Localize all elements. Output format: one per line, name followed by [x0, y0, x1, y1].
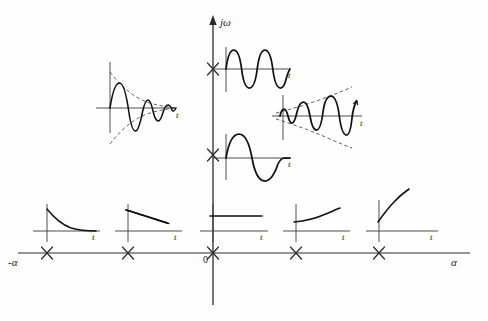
response-slow-growth — [283, 204, 350, 242]
imaginary-axis-arrow — [209, 15, 216, 25]
time-label-sustained-high-freq: t — [288, 70, 291, 80]
response-fast-decay — [33, 204, 100, 242]
curve-sustained-low-freq — [226, 134, 290, 181]
time-label-growing-oscillation: t — [360, 118, 363, 128]
response-fast-growth — [366, 189, 438, 242]
response-slow-decay — [115, 204, 182, 242]
main-axes — [18, 15, 470, 305]
curve-slow-growth — [294, 208, 340, 222]
time-label-slow-decay: t — [174, 232, 177, 242]
time-label-sustained-low-freq: t — [288, 159, 291, 169]
envelope-growth-upper-4 — [276, 87, 352, 113]
time-label-constant: t — [260, 232, 263, 242]
s-plane-canvas — [0, 0, 488, 321]
curve-damped-sinusoid — [110, 83, 176, 131]
response-constant — [200, 204, 268, 242]
response-growing-oscillation — [272, 87, 362, 148]
curve-growing-sinusoid — [280, 96, 357, 135]
response-damped-oscillation — [96, 62, 176, 144]
curve-fast-growth — [378, 189, 409, 222]
origin-label: 0 — [203, 254, 208, 265]
real-axis-label-positive: α — [451, 256, 457, 268]
time-label-fast-growth: t — [430, 232, 433, 242]
curve-slow-decay-tail — [126, 210, 166, 223]
envelope-decay-upper-1 — [110, 72, 176, 108]
time-label-slow-growth: t — [342, 232, 345, 242]
imaginary-axis-label: jω — [220, 16, 231, 28]
real-axis-label-negative: -α — [8, 256, 17, 268]
time-label-fast-decay: t — [92, 232, 95, 242]
response-sustained-low-freq — [213, 134, 290, 181]
curve-fast-decay — [47, 209, 96, 231]
s-plane-figure: jω α -α 0 t t t t t t t t t — [0, 0, 488, 321]
time-label-damped-oscillation: t — [176, 110, 179, 120]
response-sustained-high-freq — [213, 47, 290, 92]
